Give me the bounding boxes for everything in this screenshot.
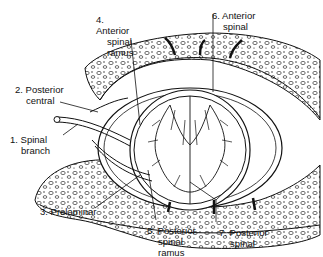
anatomy-drawing xyxy=(0,0,323,257)
label-anterior-spinal: 6. Anterior spinal xyxy=(212,10,255,32)
label-spinal-branch: 1. Spinal branch xyxy=(10,134,50,156)
label-posterior-central: 2. Posterior central xyxy=(15,84,64,106)
label-posterior-spinal-ramus: 5. Posterior spinal ramus xyxy=(147,225,196,257)
label-anterior-spinal-ramus: 4. Anterior spinal ramus xyxy=(96,14,133,58)
spinal-artery-diagram: 4. Anterior spinal ramus 6. Anterior spi… xyxy=(0,0,323,257)
label-posterior-spinal: 7. Posterior spinal xyxy=(219,227,268,249)
spinal-cord xyxy=(130,90,250,210)
label-prelaminar: 3. Prelaminar xyxy=(40,206,97,217)
